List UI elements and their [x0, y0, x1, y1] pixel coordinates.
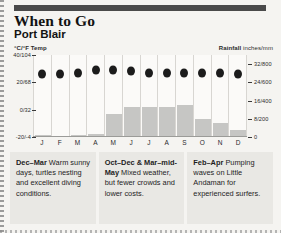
- chart-column: [51, 55, 69, 137]
- page-root: When to Go Port Blair °C/°F Temp Rainfal…: [0, 0, 281, 233]
- temperature-dot: [198, 68, 206, 77]
- season-note: Feb–Apr Pumping waves on Little Andaman …: [187, 152, 273, 224]
- rainfall-bar: [142, 107, 158, 137]
- temperature-dot: [163, 68, 171, 77]
- temperature-dot: [38, 70, 46, 79]
- season-note: Dec–Mar Warm sunny days, turtles nesting…: [10, 152, 96, 224]
- chart-baseline: [33, 136, 247, 137]
- month-label: J: [140, 139, 158, 146]
- chart-column: [33, 55, 51, 137]
- left-axis-tick: 0/32: [20, 107, 31, 113]
- month-label: S: [176, 139, 194, 146]
- rainfall-bar: [195, 119, 211, 137]
- chart-column: [193, 55, 211, 137]
- right-axis-tick: 16/400: [254, 98, 272, 104]
- chart-column: [157, 55, 175, 137]
- month-label: J: [33, 139, 51, 146]
- month-label: J: [122, 139, 140, 146]
- season-note-period: Feb–Apr: [193, 158, 223, 167]
- month-label: A: [158, 139, 176, 146]
- temperature-dot: [234, 70, 242, 79]
- left-axis-tick: 20/68: [17, 79, 32, 85]
- chart-column: [69, 55, 87, 137]
- climate-chart: 40/10420/680/32-20/-4 32/80024/60016/400…: [33, 55, 247, 137]
- rainfall-bar: [106, 114, 122, 137]
- right-axis-tick: 8/200: [254, 116, 269, 122]
- right-axis-tick: 32/800: [254, 61, 272, 67]
- rainfall-bar: [124, 107, 140, 137]
- chart-column: [104, 55, 122, 137]
- month-label: F: [51, 139, 69, 146]
- month-label: M: [104, 139, 122, 146]
- chart-column: [122, 55, 140, 137]
- month-label: A: [86, 139, 104, 146]
- rainfall-legend-title: Rainfall: [219, 45, 241, 51]
- header-rule: [14, 5, 266, 11]
- scan-edge-bottom: [0, 230, 281, 233]
- temperature-dot: [92, 66, 100, 75]
- left-axis-tick: -20/-4: [16, 134, 31, 140]
- temperature-dot: [145, 68, 153, 77]
- season-note: Oct–Dec & Mar–mid-May Mixed weather, but…: [99, 152, 185, 224]
- month-label: N: [211, 139, 229, 146]
- season-note-period: Dec–Mar: [16, 158, 47, 167]
- rainfall-bar: [177, 105, 193, 137]
- page-subtitle: Port Blair: [14, 28, 66, 40]
- month-label: D: [229, 139, 247, 146]
- chart-column: [140, 55, 158, 137]
- chart-column: [228, 55, 247, 137]
- season-notes: Dec–Mar Warm sunny days, turtles nesting…: [10, 152, 273, 224]
- month-label: O: [193, 139, 211, 146]
- rainfall-bar: [159, 107, 175, 137]
- temperature-dot: [109, 66, 117, 75]
- chart-column: [175, 55, 193, 137]
- temperature-dot: [180, 68, 188, 77]
- temperature-axis-legend: °C/°F Temp: [14, 45, 47, 51]
- temperature-dot: [216, 68, 224, 77]
- chart-plot-area: [33, 55, 247, 137]
- left-axis-tick: 40/104: [13, 52, 31, 58]
- temperature-dot: [74, 68, 82, 77]
- rainfall-axis-legend: Rainfall inches/mm: [219, 45, 273, 51]
- chart-column: [86, 55, 104, 137]
- rainfall-legend-units: inches/mm: [241, 45, 273, 51]
- month-label: M: [69, 139, 87, 146]
- month-axis-labels: JFMAMJJASOND: [33, 139, 247, 146]
- right-axis-tick: 0: [254, 134, 257, 140]
- rainfall-bar: [213, 123, 229, 137]
- scan-edge-left: [0, 0, 4, 233]
- chart-column: [211, 55, 229, 137]
- right-axis-tick: 24/600: [254, 79, 272, 85]
- temperature-dot: [127, 67, 135, 76]
- temperature-dot: [56, 70, 64, 79]
